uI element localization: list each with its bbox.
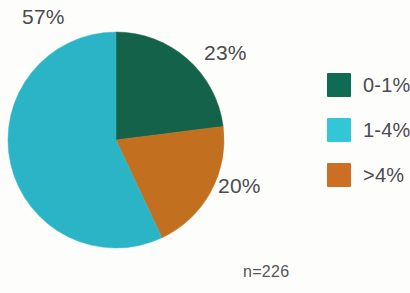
pie-label-1-4-percent: 57%: [22, 6, 65, 27]
legend-label-gt-4-percent: >4%: [363, 165, 404, 185]
legend-swatch-1-4-percent: [327, 118, 351, 142]
sample-size-annotation: n=226: [243, 264, 289, 280]
legend-item-gt-4-percent: >4%: [327, 162, 410, 187]
legend-swatch-0-1-percent: [327, 73, 351, 97]
legend-label-0-1-percent: 0-1%: [363, 75, 410, 95]
chart-legend: 0-1% 1-4% >4%: [327, 72, 410, 187]
legend-swatch-gt-4-percent: [327, 163, 351, 187]
legend-label-1-4-percent: 1-4%: [363, 120, 410, 140]
legend-item-0-1-percent: 0-1%: [327, 72, 410, 97]
pie-label-0-1-percent: 23%: [204, 42, 247, 63]
pie-chart-figure: 57% 23% 20% n=226 0-1% 1-4% >4%: [0, 0, 410, 293]
legend-item-1-4-percent: 1-4%: [327, 117, 410, 142]
pie-label-gt-4-percent: 20%: [218, 175, 261, 196]
pie-slices: [8, 32, 224, 248]
